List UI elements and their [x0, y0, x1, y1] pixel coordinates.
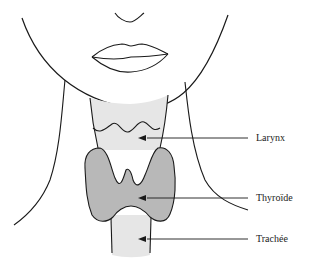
label-larynx: Larynx	[256, 132, 285, 143]
neck-right-outline	[185, 82, 248, 210]
label-thyroid: Thyroïde	[256, 192, 293, 203]
thyroid	[85, 148, 175, 222]
nose	[115, 13, 144, 22]
larynx	[90, 95, 168, 150]
neck-left-outline	[14, 80, 65, 225]
face-outline	[22, 15, 228, 109]
label-trachea: Trachée	[256, 233, 288, 244]
lip-line	[92, 54, 168, 59]
trachea	[111, 215, 151, 257]
trachea-pointer	[138, 236, 248, 242]
